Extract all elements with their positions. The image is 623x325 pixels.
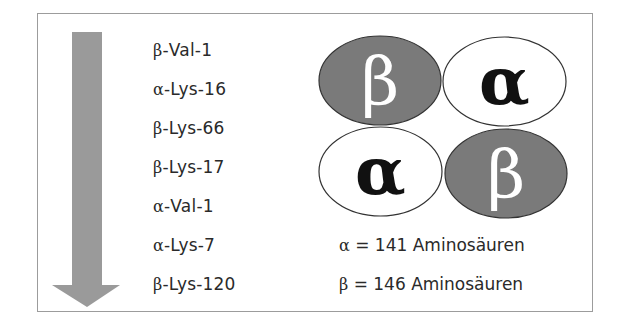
residue-label: -Lys-16 <box>164 79 226 99</box>
beta-symbol: β <box>339 275 348 294</box>
residue-item: β-Val-1 <box>153 40 212 61</box>
chain-symbol: α <box>153 197 164 216</box>
residue-item: α-Lys-7 <box>153 235 215 256</box>
beta-caption: β = 146 Aminosäuren <box>339 274 523 295</box>
residue-label: -Val-1 <box>164 196 214 216</box>
residue-item: β-Lys-17 <box>153 157 225 178</box>
alpha-symbol: α <box>339 236 350 255</box>
figure-frame <box>37 13 593 312</box>
residue-label: -Lys-66 <box>162 118 224 138</box>
chain-symbol: α <box>153 80 164 99</box>
residue-label: -Val-1 <box>162 40 212 60</box>
residue-label: -Lys-17 <box>162 157 224 177</box>
residue-label: -Lys-120 <box>162 274 235 294</box>
chain-symbol: α <box>153 236 164 255</box>
residue-item: β-Lys-66 <box>153 118 225 139</box>
alpha-caption-text: = 141 Aminosäuren <box>350 235 525 255</box>
residue-item: α-Val-1 <box>153 196 214 217</box>
residue-label: -Lys-7 <box>164 235 215 255</box>
alpha-caption: α = 141 Aminosäuren <box>339 235 525 256</box>
residue-item: α-Lys-16 <box>153 79 226 100</box>
beta-caption-text: = 146 Aminosäuren <box>348 274 523 294</box>
residue-item: β-Lys-120 <box>153 274 236 295</box>
